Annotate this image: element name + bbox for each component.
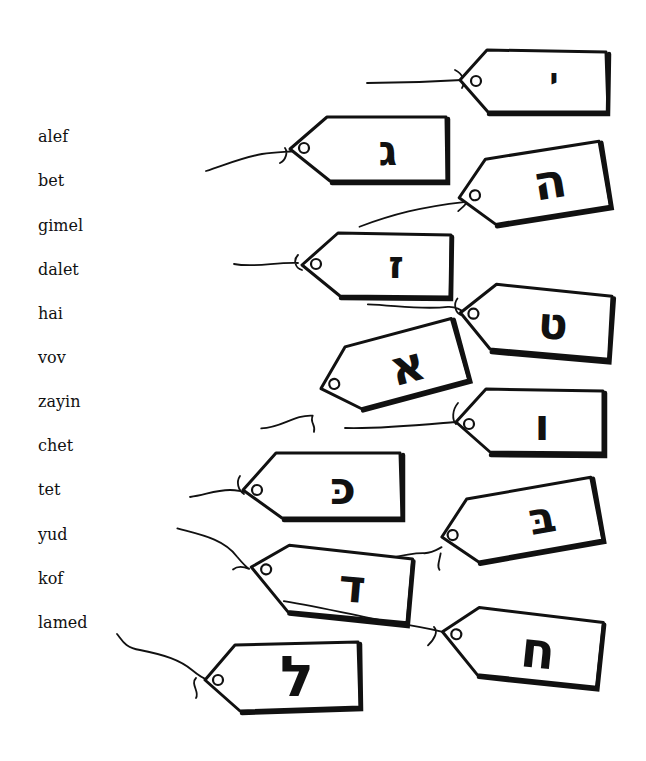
tag-zayin[interactable]: ז	[234, 233, 452, 299]
tag-dalet[interactable]: ד	[171, 528, 415, 625]
tag-hole-icon	[213, 675, 223, 685]
tag-hole-icon	[261, 564, 272, 575]
tag-alef[interactable]: א	[246, 318, 472, 445]
tag-letter: ו	[534, 399, 549, 450]
tag-string	[261, 414, 317, 445]
tag-hole-icon	[468, 308, 479, 319]
tag-letter: ל	[280, 644, 314, 709]
tag-hole-icon	[311, 259, 321, 269]
tag-hole-icon	[447, 529, 459, 541]
tag-hole-icon	[328, 378, 340, 390]
tag-body	[458, 282, 613, 359]
tag-gimel[interactable]: ג	[206, 117, 448, 183]
tag-string	[206, 148, 295, 171]
tag-letter: ט	[536, 297, 569, 350]
tag-body	[248, 542, 413, 623]
tag-letter: י	[550, 61, 559, 96]
tag-hole-icon	[471, 76, 481, 86]
tag-kof[interactable]: כּ	[190, 453, 403, 520]
tag-string	[367, 70, 464, 88]
tag-body	[436, 477, 603, 567]
tag-hole-icon	[451, 629, 462, 640]
tag-lamed[interactable]: ל	[117, 634, 361, 713]
tag-body	[290, 117, 447, 181]
tag-hole-icon	[252, 485, 262, 495]
tag-yud[interactable]: י	[367, 50, 609, 114]
tag-string	[357, 195, 473, 227]
tag-hole-icon	[464, 419, 474, 429]
tag-letter: ג	[379, 126, 398, 175]
tag-string	[174, 528, 252, 570]
tag-illustration: י ג ה ז ט א	[0, 0, 646, 761]
tag-body	[243, 453, 402, 518]
tag-letter: ד	[336, 558, 368, 614]
tag-letter: ח	[518, 620, 558, 681]
tag-hole-icon	[299, 143, 309, 153]
tag-body	[454, 141, 611, 229]
tag-body	[460, 50, 608, 112]
tag-string	[234, 255, 302, 270]
tag-string	[190, 476, 250, 497]
tag-string	[117, 634, 208, 698]
tag-body	[456, 389, 603, 453]
tag-body	[302, 233, 451, 297]
tag-letter: כּ	[330, 461, 356, 515]
tag-letter: ז	[388, 243, 403, 287]
tag-hole-icon	[469, 190, 480, 201]
